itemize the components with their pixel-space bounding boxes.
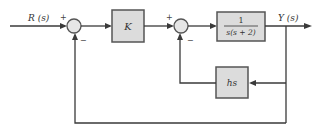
input-signal: R (s) [10, 13, 67, 29]
rate-feedback-label: hs [227, 78, 238, 88]
sum2-plus-sign: + [166, 13, 173, 22]
summing-junction-1: + − [60, 13, 87, 45]
gain-block-label: K [123, 21, 132, 32]
arrow-head-icon [304, 23, 312, 29]
output-label: Y (s) [278, 13, 299, 23]
arrow-head-icon [210, 23, 217, 29]
block-diagram: R (s) + − K + − 1 s(s + 2) Y (s) [0, 0, 328, 129]
input-label: R (s) [27, 13, 50, 23]
wire-hs-to-sum2 [180, 35, 216, 83]
plant-numerator: 1 [238, 16, 243, 25]
arrow-head-icon [72, 33, 78, 40]
arrow-head-icon [249, 80, 256, 86]
arrow-head-icon [177, 33, 183, 40]
output-signal: Y (s) [265, 13, 312, 29]
plant-denominator: s(s + 2) [226, 28, 255, 37]
arrow-head-icon [60, 23, 67, 29]
sum1-minus-sign: − [80, 36, 87, 45]
plant-block: 1 s(s + 2) [217, 12, 265, 41]
rate-feedback-block-hs: hs [216, 67, 248, 98]
sum2-minus-sign: − [187, 36, 194, 45]
arrow-head-icon [167, 23, 174, 29]
arrow-head-icon [105, 23, 112, 29]
gain-block-k: K [112, 10, 144, 42]
sum1-plus-sign: + [60, 13, 67, 22]
